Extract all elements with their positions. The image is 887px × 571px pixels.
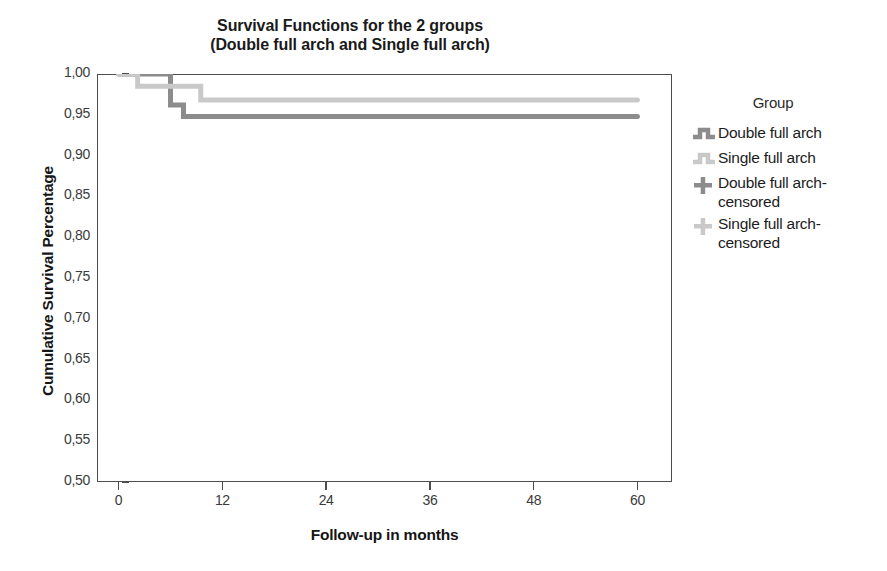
x-tick-mark: [637, 482, 638, 490]
legend-entry: Single full arch: [692, 148, 887, 170]
y-tick-label: 0,50: [38, 472, 90, 488]
x-tick-mark: [533, 482, 534, 490]
y-tick-label: 0,95: [38, 105, 90, 121]
x-tick-mark: [222, 482, 223, 490]
legend-plus-icon: [692, 173, 716, 195]
legend-entry-label: Double full arch- censored: [718, 173, 827, 211]
legend-step-line-icon: [692, 148, 716, 170]
x-tick-label: 48: [510, 492, 558, 508]
y-tick-label: 0,75: [38, 268, 90, 284]
legend-entry-label: Single full arch: [718, 148, 816, 167]
survival-curve: [119, 74, 638, 100]
plot-curves: [97, 74, 672, 482]
y-tick-label: 1,00: [38, 64, 90, 80]
legend-entry-label: Single full arch- censored: [718, 214, 821, 252]
chart-legend: Group Double full archSingle full archDo…: [692, 94, 887, 255]
y-tick-label: 0,65: [38, 350, 90, 366]
y-tick-label: 0,85: [38, 186, 90, 202]
x-tick-label: 12: [198, 492, 246, 508]
y-tick-label: 0,60: [38, 390, 90, 406]
x-tick-label: 0: [95, 492, 143, 508]
y-tick-label: 0,55: [38, 431, 90, 447]
legend-step-line-icon: [692, 123, 716, 145]
x-tick-label: 36: [406, 492, 454, 508]
chart-title-line-2: (Double full arch and Single full arch): [0, 35, 700, 54]
chart-title: Survival Functions for the 2 groups (Dou…: [0, 16, 700, 54]
legend-title: Group: [698, 94, 848, 111]
x-tick-label: 60: [613, 492, 661, 508]
y-tick-label: 0,90: [38, 146, 90, 162]
x-tick-mark: [325, 482, 326, 490]
legend-plus-icon: [692, 214, 716, 236]
y-tick-label: 0,70: [38, 309, 90, 325]
survival-curve: [119, 74, 638, 116]
x-tick-mark: [429, 482, 430, 490]
x-tick-mark: [118, 482, 119, 490]
legend-entry-label: Double full arch: [718, 123, 822, 142]
y-axis-tick-labels: 0,500,550,600,650,700,750,800,850,900,95…: [32, 0, 90, 571]
legend-entry: Double full arch- censored: [692, 173, 887, 211]
survival-chart-figure: Survival Functions for the 2 groups (Dou…: [0, 0, 887, 571]
y-tick-label: 0,80: [38, 227, 90, 243]
legend-entry: Single full arch- censored: [692, 214, 887, 252]
legend-entries: Double full archSingle full archDouble f…: [692, 123, 887, 252]
x-axis-title: Follow-up in months: [97, 526, 672, 544]
chart-title-line-1: Survival Functions for the 2 groups: [0, 16, 700, 35]
legend-entry: Double full arch: [692, 123, 887, 145]
x-tick-label: 24: [302, 492, 350, 508]
